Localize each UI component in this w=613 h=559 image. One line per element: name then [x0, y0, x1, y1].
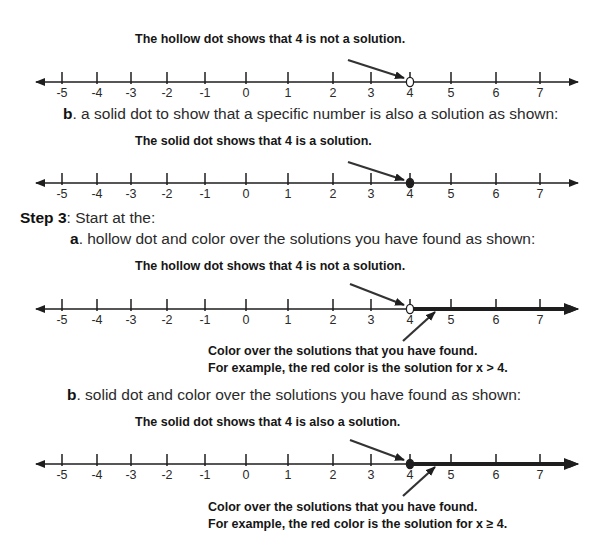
tick-label: 3: [368, 468, 375, 482]
tick-label: -2: [161, 187, 172, 201]
pointer-arrow-icon: [350, 440, 404, 460]
tick-label: -2: [161, 86, 172, 100]
tick-label: -5: [56, 313, 67, 327]
tick-label: 2: [330, 313, 337, 327]
number-line-1: -5-4-3-2-101234567: [36, 60, 578, 100]
pointer-arrow-icon: [350, 284, 404, 305]
tick-label: -5: [56, 86, 67, 100]
number-line-3: -5-4-3-2-101234567: [36, 284, 579, 341]
tick-label: 3: [368, 187, 375, 201]
tick-label: 5: [448, 86, 455, 100]
tick-label: 6: [493, 187, 500, 201]
tick-label: 0: [243, 313, 250, 327]
tick-label: 0: [243, 187, 250, 201]
tick-label: 6: [493, 313, 500, 327]
hollow-dot-icon: [406, 304, 413, 313]
tick-label: -4: [91, 187, 102, 201]
tick-label: 4: [407, 313, 414, 327]
tick-label: 2: [330, 187, 337, 201]
tick-label: 7: [537, 313, 544, 327]
tick-label: -1: [199, 468, 210, 482]
tick-label: -3: [125, 313, 136, 327]
tick-label: -4: [91, 313, 102, 327]
tick-label: 1: [285, 313, 292, 327]
tick-label: 6: [493, 468, 500, 482]
tick-label: -3: [125, 468, 136, 482]
number-line-2: -5-4-3-2-101234567: [36, 162, 578, 201]
ray-arrowhead-icon: [564, 303, 579, 315]
tick-label: 4: [407, 187, 414, 201]
tick-label: 5: [448, 468, 455, 482]
tick-label: 1: [285, 187, 292, 201]
number-line-4: -5-4-3-2-101234567: [36, 440, 579, 496]
tick-label: -2: [161, 468, 172, 482]
tick-label: 4: [407, 468, 414, 482]
tick-label: 2: [330, 468, 337, 482]
tick-label: -4: [91, 468, 102, 482]
pointer-arrow-icon: [348, 60, 404, 78]
tick-label: -3: [125, 187, 136, 201]
tick-label: -1: [199, 313, 210, 327]
tick-label: 7: [537, 86, 544, 100]
tick-label: 7: [537, 187, 544, 201]
tick-label: -5: [56, 468, 67, 482]
tick-label: 3: [368, 86, 375, 100]
tick-label: -1: [199, 187, 210, 201]
tick-label: 6: [493, 86, 500, 100]
tick-label: 0: [243, 468, 250, 482]
tick-label: 5: [448, 187, 455, 201]
tick-label: -3: [125, 86, 136, 100]
tick-label: 4: [407, 86, 414, 100]
tick-label: 3: [368, 313, 375, 327]
tick-label: 1: [285, 86, 292, 100]
pointer-arrow-icon: [348, 162, 404, 180]
tick-label: 1: [285, 468, 292, 482]
solid-dot-icon: [406, 459, 413, 468]
tick-label: 5: [448, 313, 455, 327]
hollow-dot-icon: [406, 77, 413, 86]
solid-dot-icon: [406, 178, 413, 187]
ray-arrowhead-icon: [564, 458, 579, 470]
tick-label: -4: [91, 86, 102, 100]
tick-label: -2: [161, 313, 172, 327]
tick-label: -5: [56, 187, 67, 201]
tick-label: 0: [243, 86, 250, 100]
tick-label: 7: [537, 468, 544, 482]
tick-label: -1: [199, 86, 210, 100]
tick-label: 2: [330, 86, 337, 100]
number-lines-canvas: -5-4-3-2-101234567 -5-4-3-2-101234567 -5…: [0, 0, 613, 559]
